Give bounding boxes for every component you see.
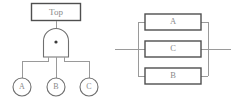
figure-canvas: Top A B C xyxy=(0,0,231,101)
reliability-block-diagram: A C B xyxy=(115,0,231,101)
block-label: A xyxy=(170,16,177,26)
basic-event-label: A xyxy=(19,82,25,91)
top-event-node[interactable]: Top xyxy=(32,4,81,21)
fault-tree-diagram: Top A B C xyxy=(0,0,115,101)
right-junction-bus xyxy=(201,22,208,76)
wire-to-c xyxy=(64,57,89,78)
basic-event-b[interactable]: B xyxy=(47,78,65,96)
wire-to-a xyxy=(22,57,48,78)
basic-event-a[interactable]: A xyxy=(13,78,31,96)
basic-event-label: B xyxy=(53,82,58,91)
block-label: B xyxy=(170,70,176,80)
left-junction-bus xyxy=(138,22,145,76)
block-c[interactable]: C xyxy=(145,41,201,57)
block-a[interactable]: A xyxy=(145,14,201,30)
basic-event-label: C xyxy=(86,82,91,91)
top-event-label: Top xyxy=(49,7,63,17)
and-gate[interactable] xyxy=(44,29,69,58)
and-gate-dot xyxy=(54,40,57,43)
block-b[interactable]: B xyxy=(145,68,201,84)
block-label: C xyxy=(170,43,176,53)
basic-event-c[interactable]: C xyxy=(80,78,98,96)
gate-fanout-wires xyxy=(22,57,89,78)
